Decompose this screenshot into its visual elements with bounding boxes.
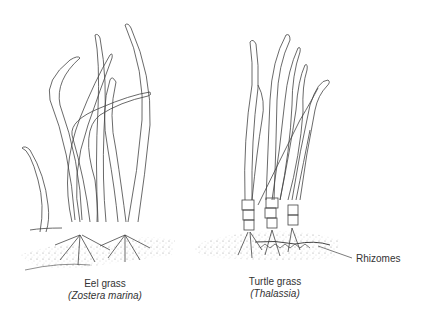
turtle-grass-common-name: Turtle grass	[225, 276, 325, 288]
eel-grass-caption: Eel grass (Zostera marina)	[55, 278, 155, 302]
turtle-grass-drawing	[195, 35, 352, 260]
rhizomes-label: Rhizomes	[356, 253, 400, 264]
eel-grass-scientific-name: (Zostera marina)	[55, 290, 155, 302]
eel-grass-common-name: Eel grass	[55, 278, 155, 290]
seagrass-illustration	[0, 0, 422, 321]
eel-grass-drawing	[20, 24, 175, 270]
turtle-grass-scientific-name: (Thalassia)	[225, 288, 325, 300]
turtle-grass-caption: Turtle grass (Thalassia)	[225, 276, 325, 300]
